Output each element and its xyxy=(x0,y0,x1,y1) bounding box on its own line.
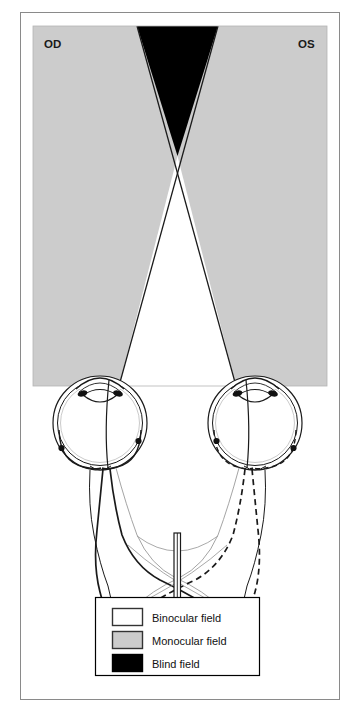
legend-label-blind: Blind field xyxy=(152,658,200,670)
legend-label-monocular: Monocular field xyxy=(152,635,227,647)
visual-field-figure: OD OS xyxy=(0,0,355,716)
figure-canvas: OD OS xyxy=(0,0,355,716)
binocular-field-swatch xyxy=(113,609,143,626)
figure-caption xyxy=(0,705,355,716)
left-retina-point-temporal xyxy=(135,438,141,444)
legend-item-monocular: Monocular field xyxy=(113,632,227,649)
left-retina-point-nasal xyxy=(58,445,64,451)
right-retina-point-temporal xyxy=(213,438,219,444)
blind-field-swatch xyxy=(113,655,143,672)
legend-label-binocular: Binocular field xyxy=(152,612,221,624)
monocular-field-swatch xyxy=(113,632,143,649)
legend: Binocular field Monocular field Blind fi… xyxy=(96,598,260,676)
label-os: OS xyxy=(298,38,315,50)
visual-field-region: OD OS xyxy=(33,26,327,386)
right-eye-globe xyxy=(208,376,302,470)
legend-item-blind: Blind field xyxy=(113,655,200,672)
legend-item-binocular: Binocular field xyxy=(113,609,222,626)
right-retina-point-nasal xyxy=(290,445,296,451)
label-od: OD xyxy=(44,38,61,50)
left-eye-globe xyxy=(53,376,147,470)
